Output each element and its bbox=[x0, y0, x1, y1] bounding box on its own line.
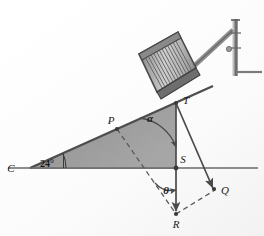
post-pivot-knob bbox=[226, 46, 231, 51]
label-point-t: T bbox=[183, 94, 190, 106]
label-point-s: S bbox=[180, 153, 186, 165]
label-base-angle: 24° bbox=[40, 158, 54, 169]
label-point-c: C bbox=[7, 162, 15, 174]
label-point-q: Q bbox=[221, 184, 229, 196]
label-angle-alpha: α bbox=[147, 112, 154, 124]
point-marker-t bbox=[174, 101, 178, 105]
point-marker-p bbox=[115, 127, 119, 131]
point-marker-q bbox=[212, 187, 216, 191]
label-angle-theta: θ bbox=[163, 184, 169, 196]
label-point-p: P bbox=[107, 114, 115, 126]
label-point-r: R bbox=[172, 218, 180, 230]
point-marker-s bbox=[174, 166, 179, 171]
geometry-figure: C P T S R Q 24° α θ bbox=[0, 0, 264, 236]
diagram-canvas: C P T S R Q 24° α θ bbox=[0, 0, 264, 236]
point-marker-r bbox=[174, 212, 178, 216]
